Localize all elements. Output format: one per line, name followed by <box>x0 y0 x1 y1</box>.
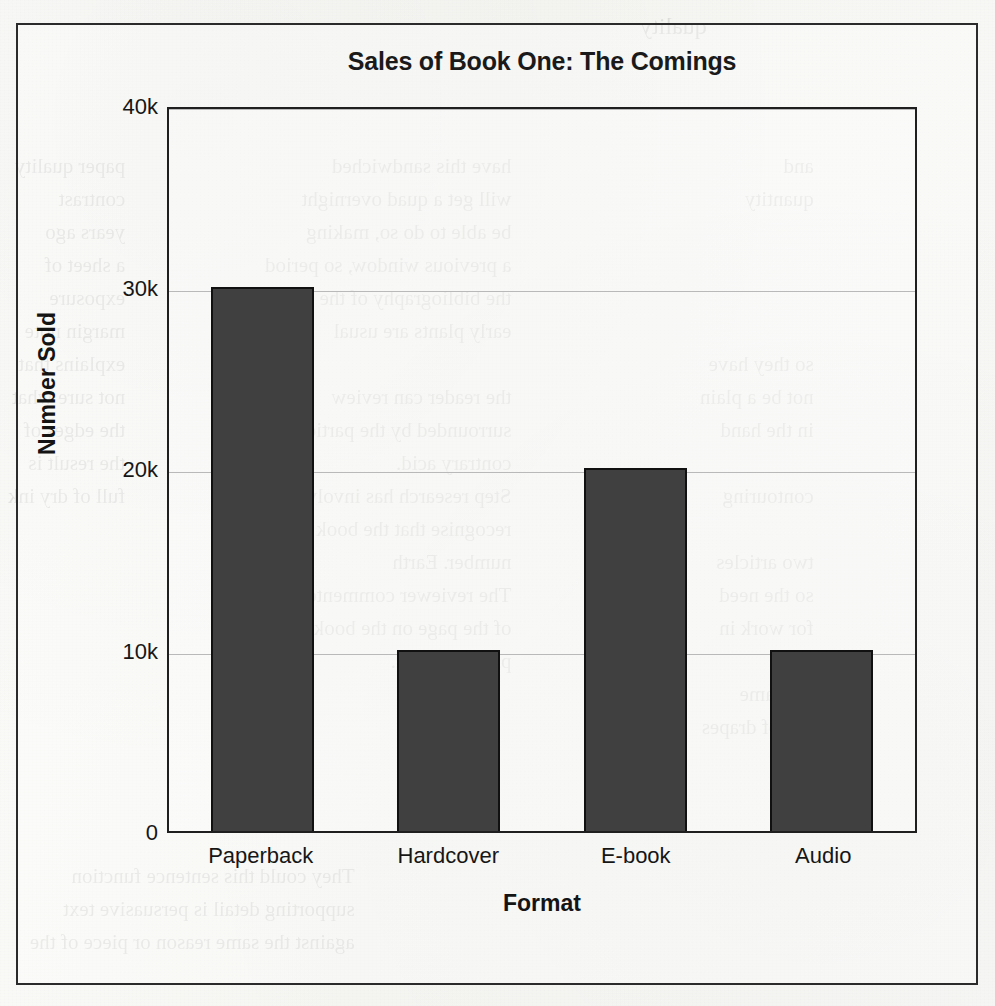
y-axis-tick-label: 40k <box>78 94 158 120</box>
bar-slot <box>542 109 729 831</box>
y-axis-tick-label: 0 <box>78 820 158 846</box>
y-axis-label: Number Sold <box>34 284 61 484</box>
x-axis-tick-label: Hardcover <box>355 843 543 869</box>
plot-area <box>167 107 917 833</box>
x-axis-label: Format <box>167 890 917 917</box>
bar-slot <box>169 109 356 831</box>
x-axis-tick-label: Audio <box>730 843 918 869</box>
bar-e-book[interactable] <box>584 468 687 831</box>
y-axis-tick-label: 10k <box>78 639 158 665</box>
bar-chart: Sales of Book One: The Comings Number So… <box>0 0 995 1006</box>
y-axis-tick-labels: 010k20k30k40k <box>70 107 158 833</box>
x-axis-tick-labels: PaperbackHardcoverE-bookAudio <box>167 843 917 869</box>
x-axis-tick-label: Paperback <box>167 843 355 869</box>
chart-title: Sales of Book One: The Comings <box>167 47 917 76</box>
y-axis-tick-label: 20k <box>78 457 158 483</box>
bar-audio[interactable] <box>770 650 873 832</box>
x-axis-tick-label: E-book <box>542 843 730 869</box>
bar-hardcover[interactable] <box>397 650 500 832</box>
bar-slot <box>356 109 543 831</box>
bar-paperback[interactable] <box>211 287 314 832</box>
bar-slot <box>729 109 916 831</box>
bar-series <box>169 109 915 831</box>
y-axis-tick-label: 30k <box>78 276 158 302</box>
